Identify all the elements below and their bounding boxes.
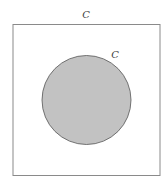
venn-diagram: C C bbox=[0, 0, 165, 182]
universe-label: C bbox=[82, 9, 90, 20]
set-circle bbox=[42, 56, 131, 145]
set-label: C bbox=[111, 49, 119, 60]
